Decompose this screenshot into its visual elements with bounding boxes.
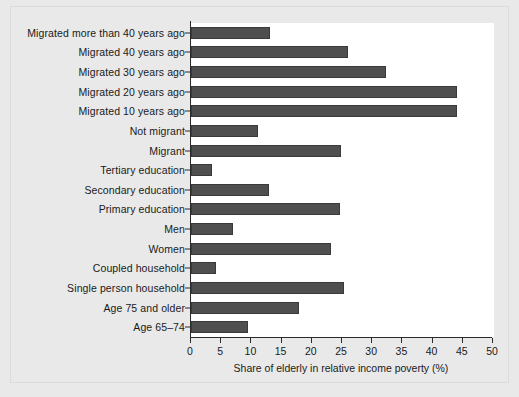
y-axis-tick-mark [185, 91, 190, 92]
chart-category-row: Age 65–74 [0, 317, 519, 337]
y-axis-tick-mark [185, 150, 190, 151]
x-axis-tick-mark [371, 338, 372, 343]
bar [191, 86, 457, 98]
y-axis-tick-label: Migrated 40 years ago [78, 46, 185, 58]
bar-chart-figure: Migrated more than 40 years agoMigrated … [0, 0, 519, 397]
x-axis-tick-mark [432, 338, 433, 343]
bar [191, 184, 269, 196]
x-axis-title: Share of elderly in relative income pove… [190, 362, 492, 374]
y-axis-tick-mark [185, 111, 190, 112]
x-axis-tick-label: 45 [456, 345, 468, 357]
y-axis-tick-mark [185, 52, 190, 53]
y-axis-tick-mark [185, 327, 190, 328]
chart-category-row: Secondary education [0, 180, 519, 200]
y-axis-tick-mark [185, 287, 190, 288]
bar [191, 27, 270, 39]
x-axis-tick-mark [401, 338, 402, 343]
x-axis-tick-mark [220, 338, 221, 343]
y-axis-tick-mark [185, 307, 190, 308]
y-axis-tick-label: Primary education [99, 203, 185, 215]
y-axis-tick-label: Age 65–74 [133, 321, 185, 333]
chart-category-row: Men [0, 219, 519, 239]
chart-category-row: Women [0, 239, 519, 259]
y-axis-tick-mark [185, 72, 190, 73]
y-axis-tick-label: Migrated 10 years ago [78, 105, 185, 117]
y-axis-tick-mark [185, 189, 190, 190]
bar [191, 145, 341, 157]
bar [191, 321, 248, 333]
x-axis-tick-label: 10 [245, 345, 257, 357]
y-axis-tick-label: Not migrant [130, 125, 185, 137]
x-axis-tick-mark [311, 338, 312, 343]
y-axis-tick-label: Men [164, 223, 185, 235]
y-axis-tick-label: Coupled household [93, 262, 185, 274]
chart-category-row: Migrated 40 years ago [0, 43, 519, 63]
y-axis-tick-mark [185, 32, 190, 33]
bar [191, 223, 233, 235]
x-axis-tick-label: 20 [305, 345, 317, 357]
chart-category-row: Primary education [0, 200, 519, 220]
x-axis-tick-label: 0 [187, 345, 193, 357]
x-axis-tick-label: 25 [335, 345, 347, 357]
bar [191, 164, 212, 176]
x-axis-tick-label: 5 [217, 345, 223, 357]
x-axis-tick-label: 50 [486, 345, 498, 357]
chart-category-row: Single person household [0, 278, 519, 298]
y-axis-tick-label: Age 75 and older [103, 302, 185, 314]
chart-category-row: Migrated more than 40 years ago [0, 23, 519, 43]
chart-category-row: Migrant [0, 141, 519, 161]
bar [191, 302, 299, 314]
bar [191, 66, 386, 78]
chart-category-row: Tertiary education [0, 160, 519, 180]
bar [191, 243, 331, 255]
chart-category-row: Coupled household [0, 259, 519, 279]
x-axis-tick-mark [341, 338, 342, 343]
y-axis-tick-mark [185, 130, 190, 131]
bar [191, 262, 216, 274]
y-axis-tick-label: Migrated 20 years ago [78, 86, 185, 98]
y-axis-tick-label: Women [149, 243, 186, 255]
y-axis-tick-mark [185, 209, 190, 210]
y-axis-tick-label: Migrant [149, 145, 185, 157]
x-axis-tick-label: 40 [426, 345, 438, 357]
x-axis-tick-mark [492, 338, 493, 343]
y-axis-tick-label: Secondary education [84, 184, 185, 196]
y-axis-tick-label: Migrated 30 years ago [78, 66, 185, 78]
x-axis-tick-mark [190, 338, 191, 343]
y-axis-tick-mark [185, 248, 190, 249]
chart-category-row: Age 75 and older [0, 298, 519, 318]
chart-category-row: Migrated 10 years ago [0, 102, 519, 122]
bar [191, 282, 344, 294]
bar [191, 46, 348, 58]
chart-category-row: Migrated 20 years ago [0, 82, 519, 102]
bar [191, 125, 258, 137]
x-axis-tick-mark [462, 338, 463, 343]
x-axis-tick-label: 35 [396, 345, 408, 357]
x-axis-tick-label: 30 [365, 345, 377, 357]
bar [191, 105, 457, 117]
y-axis-tick-label: Migrated more than 40 years ago [27, 27, 185, 39]
x-axis-tick-label: 15 [275, 345, 287, 357]
x-axis-tick-mark [281, 338, 282, 343]
x-axis-tick-mark [250, 338, 251, 343]
y-axis-tick-mark [185, 268, 190, 269]
chart-category-row: Not migrant [0, 121, 519, 141]
y-axis-tick-mark [185, 170, 190, 171]
y-axis-tick-label: Single person household [67, 282, 185, 294]
y-axis-tick-label: Tertiary education [100, 164, 185, 176]
bar [191, 203, 340, 215]
chart-category-row: Migrated 30 years ago [0, 62, 519, 82]
y-axis-tick-mark [185, 229, 190, 230]
